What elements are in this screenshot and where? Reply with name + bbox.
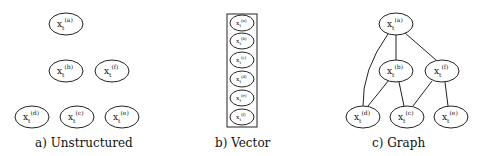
vnode-c: xt(c) bbox=[230, 52, 254, 68]
node-e: xt(e) bbox=[105, 106, 139, 128]
panel-graph: xt(a) xt(b) xt(f) xt(d) xt(c) xt(e) c) G… bbox=[346, 13, 468, 150]
node-b: xt(b) bbox=[49, 60, 83, 82]
edge-f-e bbox=[445, 82, 448, 106]
edge-f-c bbox=[413, 81, 432, 106]
node-a: xt(a) bbox=[49, 13, 83, 35]
gnode-c: xt(c) bbox=[390, 106, 424, 128]
node-f: xt(f) bbox=[95, 60, 129, 82]
edge-b-d bbox=[368, 80, 389, 106]
gnode-b: xt(b) bbox=[379, 60, 413, 82]
caption-unstructured: a) Unstructured bbox=[35, 136, 133, 150]
gnode-e: xt(e) bbox=[434, 106, 468, 128]
panel-unstructured: xt(a) xt(b) xt(f) xt(d) xt(c) xt(e) a) U… bbox=[15, 13, 139, 150]
vnode-d: xt(d) bbox=[230, 71, 254, 87]
gnode-d: xt(d) bbox=[346, 106, 380, 128]
node-c: xt(c) bbox=[60, 106, 94, 128]
vnode-e: xt(e) bbox=[230, 90, 254, 106]
gnode-f: xt(f) bbox=[425, 60, 459, 82]
caption-vector: b) Vector bbox=[215, 136, 271, 150]
panel-vector: xt(a) xt(b) xt(c) xt(d) xt(e) xt(f) b) V… bbox=[215, 14, 271, 150]
gnode-a: xt(a) bbox=[379, 13, 413, 35]
diagram-canvas: xt(a) xt(b) xt(f) xt(d) xt(c) xt(e) a) U… bbox=[0, 0, 481, 156]
vnode-a: xt(a) bbox=[230, 15, 254, 31]
edge-a-f bbox=[405, 33, 436, 60]
vnode-f: xt(f) bbox=[230, 109, 254, 125]
vnode-b: xt(b) bbox=[230, 33, 254, 49]
caption-graph: c) Graph bbox=[372, 136, 425, 150]
node-d: xt(d) bbox=[15, 106, 49, 128]
edge-b-c bbox=[399, 82, 404, 106]
